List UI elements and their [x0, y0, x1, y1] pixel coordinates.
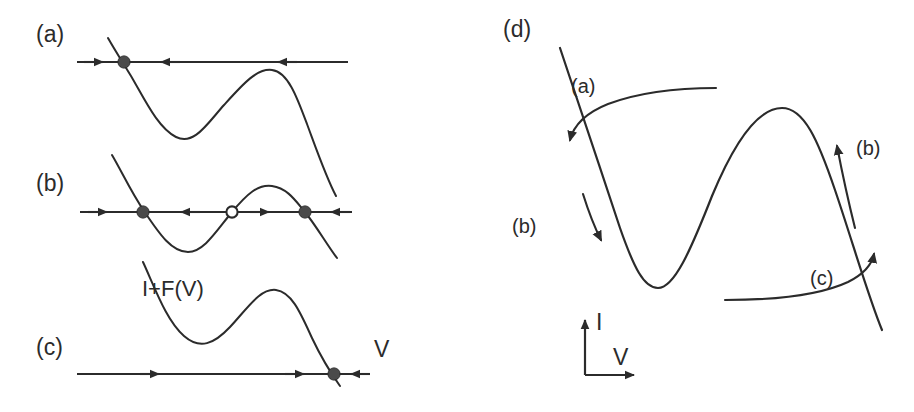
panel-b-fixed-point-unstable — [226, 206, 237, 217]
panel-a-graphics — [77, 38, 348, 196]
figure-canvas: (a) (b) (c) (d) I+F(V) V (a) (b) (b) (c)… — [0, 0, 914, 412]
panel-c-graphics — [77, 262, 370, 386]
panel-label-c: (c) — [36, 336, 63, 359]
panel-d-axis-label-v: V — [613, 346, 628, 369]
panel-b-fixed-point-stable-left — [137, 206, 149, 218]
panel-d-flow-label-b-right: (b) — [856, 138, 880, 158]
panel-d-flow-label-c: (c) — [810, 268, 833, 288]
panel-c-fixed-point-stable — [328, 368, 340, 380]
panel-label-d: (d) — [503, 18, 531, 41]
panel-label-a: (a) — [36, 23, 64, 46]
figure-vector-layer — [0, 0, 914, 412]
panel-a-fixed-point-stable — [118, 56, 130, 68]
panel-b-fixed-point-stable-right — [299, 206, 311, 218]
panel-d-flow-label-b-left: (b) — [512, 216, 536, 236]
panel-b-graphics — [80, 155, 352, 258]
panel-d-trajectory-b-right — [837, 146, 855, 228]
panel-d-flow-label-a: (a) — [571, 76, 595, 96]
panel-label-b: (b) — [36, 172, 64, 195]
panel-d-graphics — [560, 48, 882, 375]
panel-d-axis-label-i: I — [596, 311, 602, 334]
nullcline-equation-label: I+F(V) — [142, 278, 204, 300]
panel-d-trajectory-b-left — [583, 194, 601, 240]
panel-c-v-axis-label: V — [374, 338, 389, 361]
panel-d-trajectory-c — [725, 254, 874, 300]
